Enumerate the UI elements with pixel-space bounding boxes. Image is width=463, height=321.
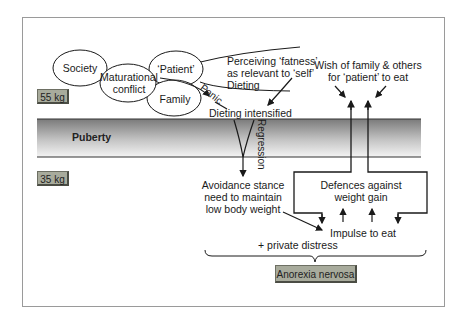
weight-35kg-label: 35 kg <box>37 171 69 186</box>
brace <box>205 250 426 262</box>
defences-against-weight-gain-text: Defences against weight gain <box>315 179 407 203</box>
regression-label: Regression <box>256 119 267 170</box>
maturational-conflict-label: Maturational conflict <box>100 71 158 95</box>
society-label: Society <box>55 62 105 74</box>
diagram-graphics <box>0 0 463 321</box>
puberty-label: Puberty <box>72 131 111 143</box>
wish-arrow-left <box>335 86 345 97</box>
avoidance-stance-text: Avoidance stance need to maintain low bo… <box>200 179 286 215</box>
weight-55kg-label: 55 kg <box>37 89 69 104</box>
wish-of-family-text: Wish of family & others for ‘patient’ to… <box>303 59 433 83</box>
wish-arrow-right <box>376 86 386 97</box>
impulse-to-eat-label: Impulse to eat <box>330 227 396 239</box>
anorexia-nervosa-box: Anorexia nervosa <box>275 265 357 283</box>
avoidance-arrow <box>283 212 322 230</box>
private-distress-label: + private distress <box>258 239 338 251</box>
dieting-intensified-label: Dieting intensified <box>209 107 292 119</box>
